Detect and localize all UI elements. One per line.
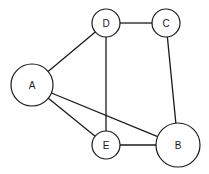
node-b: B — [156, 123, 200, 167]
graph-diagram: ADCEB — [0, 0, 209, 174]
node-d: D — [92, 9, 120, 37]
node-label: C — [162, 18, 169, 29]
node-c: C — [152, 9, 180, 37]
edge-c-b — [167, 37, 175, 123]
node-label: A — [29, 80, 36, 91]
edges-layer — [48, 23, 176, 145]
node-e: E — [92, 131, 120, 159]
node-label: D — [102, 18, 109, 29]
edge-a-e — [48, 98, 95, 136]
node-a: A — [11, 64, 53, 106]
node-label: E — [103, 140, 110, 151]
node-label: B — [175, 140, 182, 151]
edge-a-b — [51, 93, 157, 137]
edge-a-d — [48, 32, 95, 72]
